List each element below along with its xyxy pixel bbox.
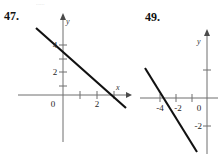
textbook-figure-page: ...... 47. y x 0 2 4 2 [0,0,220,160]
y-tick-label-49-neg2: -2 [195,121,203,131]
x-tick-label-47-0: 0 [51,99,56,109]
y-axis-label-47: y [65,17,70,26]
y-axis-label-49: y [196,37,201,46]
x-tick-label-49-neg2: -2 [174,103,182,113]
x-tick-label-49-neg4: -4 [156,103,164,113]
y-axis-arrow-49 [204,29,210,36]
plot-line-47 [36,28,126,108]
x-axis-arrow-47 [126,92,132,98]
y-tick-label-47-4: 4 [53,40,58,50]
x-axis-label-47: x [115,83,120,92]
graph-47: y x 0 2 4 2 [18,14,130,142]
x-tick-label-49-0: 0 [197,103,202,113]
plot-line-49 [145,68,197,152]
problem-number-47: 47. [4,10,19,22]
page-header-partial-text: ...... [36,0,154,7]
x-tick-label-47-2: 2 [95,99,100,109]
y-tick-label-47-2: 2 [53,67,58,77]
graph-49: y -4 -2 0 -2 [140,22,220,154]
